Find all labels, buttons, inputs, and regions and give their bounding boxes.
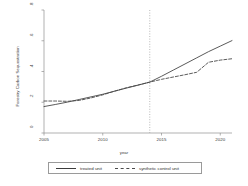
- x-tick-label: 2020: [208, 137, 232, 142]
- legend-key-solid-icon: [56, 165, 76, 171]
- y-tick-label: .8: [29, 3, 34, 17]
- chart-figure: Forestry Carbon Sequestration year 0.2.4…: [0, 0, 248, 186]
- series-line: [44, 59, 232, 102]
- legend-item-treated: treated unit: [56, 163, 102, 173]
- x-tick-label: 2005: [32, 137, 56, 142]
- chart-legend: treated unit synthetic control unit: [48, 162, 202, 174]
- series-line: [44, 41, 232, 107]
- x-tick-marks: [44, 133, 220, 136]
- legend-item-synthetic: synthetic control unit: [115, 163, 179, 173]
- y-axis-title: Forestry Carbon Sequestration: [15, 29, 20, 125]
- y-tick-label: .2: [29, 95, 34, 109]
- legend-key-dashed-icon: [115, 165, 135, 171]
- x-tick-label: 2010: [91, 137, 115, 142]
- y-tick-label: .6: [29, 33, 34, 47]
- data-series-group: [44, 41, 232, 107]
- y-tick-label: .4: [29, 64, 34, 78]
- legend-label-synthetic: synthetic control unit: [139, 166, 179, 171]
- x-tick-label: 2015: [150, 137, 174, 142]
- legend-label-treated: treated unit: [80, 166, 102, 171]
- plot-frame: [44, 10, 232, 133]
- y-tick-marks: [42, 10, 45, 133]
- x-axis-title: year: [0, 150, 248, 155]
- plot-canvas: [0, 0, 248, 186]
